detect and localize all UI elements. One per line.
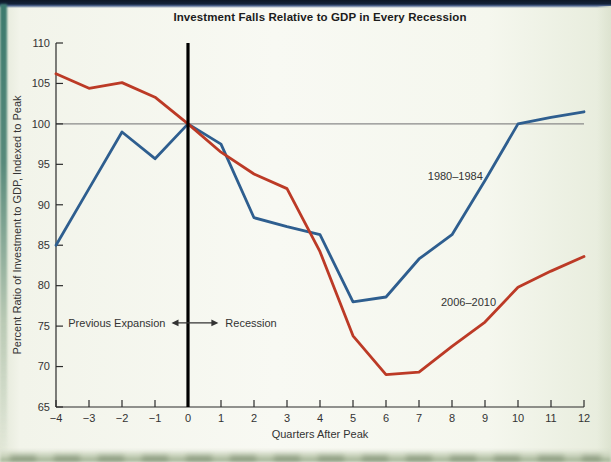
investment-gdp-line-chart: 65707580859095100105110−4−3−2−1012345678… bbox=[0, 0, 611, 462]
series-label-1980-1984: 1980–1984 bbox=[428, 170, 483, 182]
x-tick-label: 6 bbox=[383, 412, 389, 424]
x-tick-label: 0 bbox=[185, 412, 191, 424]
y-tick-label: 110 bbox=[32, 37, 50, 49]
x-tick-label: 4 bbox=[317, 412, 323, 424]
x-tick-label: 7 bbox=[416, 412, 422, 424]
previous-expansion-label: Previous Expansion bbox=[68, 317, 165, 329]
y-tick-label: 65 bbox=[38, 401, 50, 413]
recession-label: Recession bbox=[225, 317, 276, 329]
x-tick-label: 11 bbox=[545, 412, 556, 424]
y-axis-title: Percent Ratio of Investment to GDP, Inde… bbox=[11, 95, 23, 355]
series-label-2006-2010: 2006–2010 bbox=[441, 296, 496, 308]
x-tick-label: 1 bbox=[218, 412, 224, 424]
x-tick-label: 2 bbox=[251, 412, 257, 424]
x-tick-label: −2 bbox=[116, 412, 129, 424]
y-tick-label: 75 bbox=[38, 320, 50, 332]
x-tick-label: −4 bbox=[50, 412, 63, 424]
x-axis-title: Quarters After Peak bbox=[272, 428, 369, 440]
y-tick-label: 105 bbox=[32, 77, 50, 89]
y-tick-label: 85 bbox=[38, 239, 50, 251]
chart-title: Investment Falls Relative to GDP in Ever… bbox=[56, 11, 584, 23]
y-tick-label: 95 bbox=[38, 158, 50, 170]
x-tick-label: 8 bbox=[449, 412, 455, 424]
x-tick-label: 5 bbox=[350, 412, 356, 424]
right-arrowhead-icon bbox=[211, 319, 218, 326]
x-tick-label: 3 bbox=[284, 412, 290, 424]
y-tick-label: 80 bbox=[38, 279, 50, 291]
x-tick-label: 9 bbox=[482, 412, 488, 424]
series-line-1980-1984 bbox=[56, 112, 584, 302]
textbook-page-photo: 65707580859095100105110−4−3−2−1012345678… bbox=[0, 0, 611, 462]
y-tick-label: 70 bbox=[38, 360, 50, 372]
series-line-2006-2010 bbox=[56, 74, 584, 375]
x-tick-label: 10 bbox=[512, 412, 524, 424]
left-arrowhead-icon bbox=[172, 319, 179, 326]
x-tick-label: −3 bbox=[83, 412, 96, 424]
y-tick-label: 100 bbox=[32, 118, 50, 130]
x-tick-label: −1 bbox=[149, 412, 162, 424]
x-tick-label: 12 bbox=[578, 412, 590, 424]
y-tick-label: 90 bbox=[38, 199, 50, 211]
